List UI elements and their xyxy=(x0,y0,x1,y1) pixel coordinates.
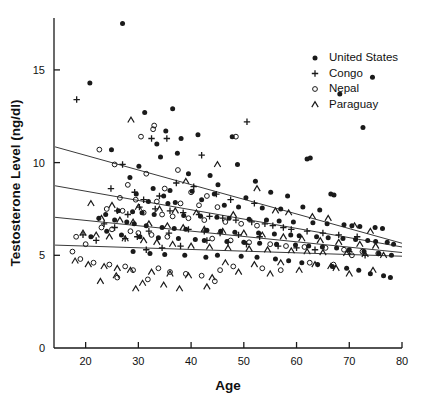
y-tick-label: 0 xyxy=(39,342,45,354)
y-tick-label: 15 xyxy=(33,64,45,76)
data-point xyxy=(210,236,215,241)
data-point xyxy=(152,212,157,217)
data-point xyxy=(299,260,304,265)
data-point xyxy=(236,205,241,210)
data-point xyxy=(300,205,305,210)
data-point xyxy=(154,240,160,245)
data-point xyxy=(97,147,102,152)
data-point xyxy=(172,226,177,231)
data-point xyxy=(268,190,273,195)
data-point xyxy=(186,171,191,176)
data-point xyxy=(154,142,159,147)
data-point xyxy=(170,214,175,219)
legend-label: Paraguay xyxy=(329,98,378,110)
data-point xyxy=(188,243,194,248)
data-point xyxy=(109,202,115,207)
x-tick-label: 40 xyxy=(185,355,197,367)
data-point xyxy=(257,241,262,246)
legend-item-united-states[interactable]: United States xyxy=(313,51,399,63)
data-point xyxy=(146,221,152,226)
data-point xyxy=(119,232,124,237)
data-point xyxy=(147,251,152,256)
data-point xyxy=(222,203,227,208)
data-point xyxy=(215,205,220,210)
data-point xyxy=(104,229,109,234)
data-point xyxy=(215,253,220,258)
y-tick-label: 10 xyxy=(33,157,45,169)
data-point xyxy=(286,258,291,263)
data-point xyxy=(70,249,75,254)
data-point xyxy=(199,197,204,202)
data-point xyxy=(165,234,170,239)
data-point xyxy=(331,193,336,198)
data-point xyxy=(149,233,154,238)
data-point xyxy=(179,136,184,141)
data-point xyxy=(317,207,322,212)
data-point xyxy=(172,208,178,213)
data-point xyxy=(112,218,117,223)
legend-item-congo[interactable]: Congo xyxy=(312,67,363,79)
data-point xyxy=(108,185,114,191)
data-point xyxy=(114,208,120,214)
data-point xyxy=(334,245,339,250)
data-point xyxy=(388,275,393,280)
data-point xyxy=(202,218,207,223)
data-point xyxy=(204,284,210,289)
data-point xyxy=(389,253,394,258)
data-point xyxy=(280,234,286,239)
data-point xyxy=(133,286,139,291)
data-point xyxy=(241,230,247,235)
data-point xyxy=(159,245,165,251)
data-point xyxy=(160,225,165,230)
data-point xyxy=(253,179,258,184)
data-point xyxy=(97,278,103,283)
data-point xyxy=(255,255,260,260)
data-point xyxy=(367,228,373,233)
data-point xyxy=(260,266,265,271)
caret-icon xyxy=(312,102,318,107)
data-point xyxy=(168,188,173,193)
data-point xyxy=(273,257,278,262)
data-point xyxy=(251,262,257,267)
data-point xyxy=(304,228,310,234)
legend-label: Congo xyxy=(329,67,363,79)
data-point xyxy=(176,236,181,241)
data-point xyxy=(73,96,79,102)
data-point xyxy=(107,262,112,267)
data-point xyxy=(222,260,228,265)
data-point xyxy=(380,226,385,231)
data-point xyxy=(175,151,180,156)
legend-item-nepal[interactable]: Nepal xyxy=(313,82,359,94)
data-point xyxy=(209,275,215,280)
data-point xyxy=(391,242,396,247)
data-point xyxy=(197,203,202,208)
data-point xyxy=(320,230,326,236)
data-point xyxy=(235,162,240,167)
data-point xyxy=(156,193,162,199)
data-point xyxy=(156,266,161,271)
data-point xyxy=(142,110,147,115)
data-point xyxy=(185,273,191,278)
legend-item-paraguay[interactable]: Paraguay xyxy=(312,98,379,110)
legend-label: Nepal xyxy=(329,82,359,94)
data-point xyxy=(357,224,362,229)
data-point xyxy=(170,106,175,111)
data-point xyxy=(278,260,284,265)
data-point xyxy=(243,195,248,200)
data-point xyxy=(255,223,260,228)
data-point xyxy=(128,229,133,234)
data-point xyxy=(370,75,375,80)
data-point xyxy=(247,217,252,222)
data-point xyxy=(182,253,187,258)
chart-legend[interactable]: United StatesCongoNepalParaguay xyxy=(312,51,398,110)
data-point xyxy=(277,219,282,224)
data-point xyxy=(176,286,182,291)
data-point xyxy=(218,268,223,273)
data-point xyxy=(199,273,204,278)
data-point xyxy=(203,255,208,260)
series-paraguay xyxy=(72,117,387,291)
data-point xyxy=(268,242,273,247)
data-point xyxy=(312,247,318,253)
data-point xyxy=(231,264,236,269)
data-point xyxy=(235,269,241,274)
